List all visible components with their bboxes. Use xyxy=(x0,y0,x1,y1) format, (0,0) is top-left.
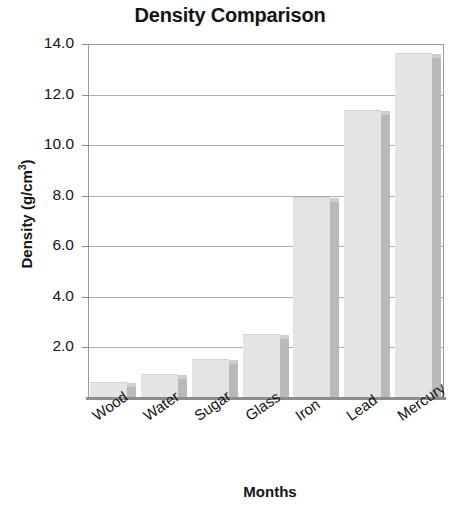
y-axis-tick-label: 2.0 xyxy=(26,337,74,355)
y-axis-tick-label: 12.0 xyxy=(26,85,74,103)
bar-side-face xyxy=(178,379,187,398)
bar xyxy=(293,198,339,398)
bar-side-face xyxy=(432,58,441,398)
bar-face xyxy=(243,334,280,398)
bar-side-face xyxy=(229,364,238,398)
bar-top-face xyxy=(178,375,187,379)
bar-side-face xyxy=(330,202,339,398)
y-axis-tick-label: 6.0 xyxy=(26,236,74,254)
x-axis-title: Months xyxy=(0,483,460,500)
y-axis-tick-label: 8.0 xyxy=(26,186,74,204)
y-axis-tick-label: 10.0 xyxy=(26,135,74,153)
bar-side-face xyxy=(280,339,289,398)
bar-top-face xyxy=(432,54,441,58)
chart-title: Density Comparison xyxy=(0,4,460,27)
y-axis-tick-label: 4.0 xyxy=(26,287,74,305)
bar-face xyxy=(293,197,330,398)
bar xyxy=(344,111,390,398)
y-axis-tick-label: 14.0 xyxy=(26,34,74,52)
bars-layer xyxy=(88,44,444,398)
bar-top-face xyxy=(127,383,136,387)
density-comparison-chart: Density Comparison Density (g/cm3) 14.01… xyxy=(0,0,460,512)
bar-top-face xyxy=(330,198,339,202)
bar-face xyxy=(395,53,432,398)
bar-top-face xyxy=(280,335,289,339)
y-axis-title-superscript: 3 xyxy=(17,165,28,171)
y-axis-title-tail: ) xyxy=(18,160,35,165)
bar-face xyxy=(344,110,381,398)
bar-top-face xyxy=(229,360,238,364)
bar xyxy=(395,54,441,398)
bar xyxy=(243,335,289,398)
bar-top-face xyxy=(381,111,390,115)
bar-side-face xyxy=(381,115,390,398)
